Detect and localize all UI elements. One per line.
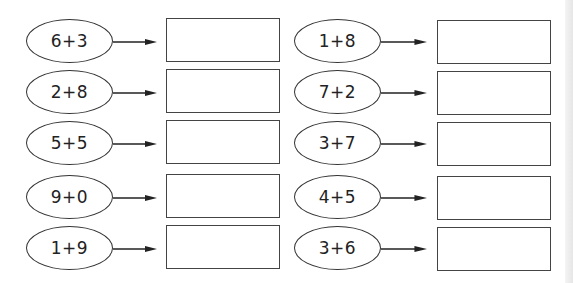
arrow-right-icon (381, 39, 427, 45)
problem-row: 2+8 (26, 70, 286, 114)
expression-oval: 5+5 (26, 121, 113, 165)
expression-oval: 1+8 (294, 19, 381, 63)
answer-box[interactable] (437, 176, 551, 220)
answer-box[interactable] (437, 122, 551, 166)
problem-row: 3+7 (294, 121, 554, 165)
answer-box[interactable] (437, 71, 551, 115)
expression-oval: 9+0 (26, 175, 113, 219)
problem-row: 1+9 (26, 226, 286, 270)
page-edge (565, 0, 573, 283)
expression-oval: 3+6 (294, 226, 381, 270)
arrow-right-icon (381, 246, 427, 252)
arrow-right-icon (381, 195, 427, 201)
expression-oval: 7+2 (294, 70, 381, 114)
arrow-right-icon (113, 90, 157, 96)
problem-row: 9+0 (26, 175, 286, 219)
arrow-right-icon (113, 246, 157, 252)
arrow-right-icon (381, 90, 427, 96)
answer-box[interactable] (437, 20, 551, 64)
answer-box[interactable] (166, 225, 280, 269)
problem-row: 4+5 (294, 175, 554, 219)
expression-oval: 6+3 (26, 19, 113, 63)
problem-row: 1+8 (294, 19, 554, 63)
expression-oval: 2+8 (26, 70, 113, 114)
arrow-right-icon (113, 39, 157, 45)
answer-box[interactable] (166, 120, 280, 164)
problem-row: 6+3 (26, 19, 286, 63)
answer-box[interactable] (166, 69, 280, 113)
answer-box[interactable] (437, 227, 551, 271)
problem-row: 7+2 (294, 70, 554, 114)
arrow-right-icon (113, 195, 157, 201)
answer-box[interactable] (166, 174, 280, 218)
problem-row: 3+6 (294, 226, 554, 270)
problem-row: 5+5 (26, 121, 286, 165)
arrow-right-icon (381, 141, 427, 147)
expression-oval: 1+9 (26, 226, 113, 270)
expression-oval: 3+7 (294, 121, 381, 165)
arrow-right-icon (113, 141, 157, 147)
answer-box[interactable] (166, 18, 280, 62)
expression-oval: 4+5 (294, 175, 381, 219)
